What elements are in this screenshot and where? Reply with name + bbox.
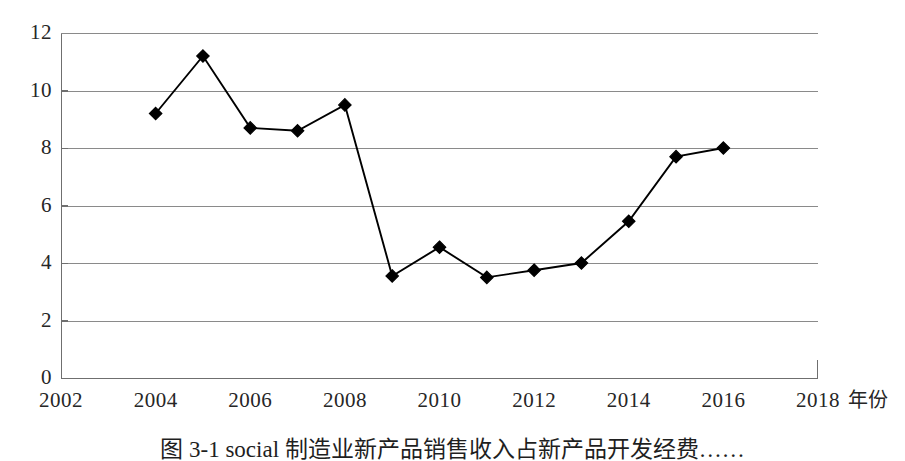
- x-axis-labels: 年份 200220042006200820102012201420162018: [0, 388, 905, 422]
- y-axis-tick-label: 4: [8, 252, 52, 273]
- y-axis-tick-label: 8: [8, 137, 52, 158]
- y-axis-tickmarks: [62, 91, 69, 321]
- x-axis-tick-label: 2012: [489, 388, 579, 412]
- figure: 024681012 年份 200220042006200820102012201…: [0, 0, 905, 461]
- x-axis-tick-label: 2014: [584, 388, 674, 412]
- x-axis-tick-label: 2008: [300, 388, 390, 412]
- x-axis-tick-label: 2006: [205, 388, 295, 412]
- x-axis-tick-label: 2018: [773, 388, 863, 412]
- y-axis-tick-label: 6: [8, 195, 52, 216]
- y-axis-tick-label: 10: [8, 80, 52, 101]
- x-axis-tick-label: 2002: [16, 388, 106, 412]
- x-axis-tick-label: 2016: [678, 388, 768, 412]
- y-axis-tick-label: 2: [8, 310, 52, 331]
- line-chart-plot: [0, 0, 905, 430]
- gridlines: [61, 34, 818, 322]
- y-axis-tick-label: 12: [8, 22, 52, 43]
- y-axis-labels: 024681012: [0, 0, 52, 430]
- y-axis-tick-label: 0: [8, 367, 52, 388]
- data-point-markers: [149, 50, 729, 284]
- x-axis-tick-label: 2010: [395, 388, 485, 412]
- chart-area: 024681012: [0, 0, 905, 430]
- x-axis-tick-label: 2004: [111, 388, 201, 412]
- figure-caption: 图 3-1 social 制造业新产品销售收入占新产品开发经费……: [0, 436, 905, 461]
